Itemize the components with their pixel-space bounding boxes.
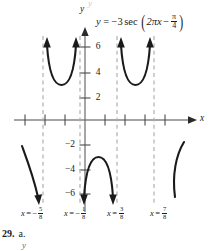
asym-den: 8 <box>162 213 167 221</box>
asymptote-lines <box>43 36 154 206</box>
y-axis-label: y <box>80 4 84 14</box>
equation-open-paren: ( <box>141 14 145 30</box>
curve-arrowheads <box>34 37 153 205</box>
asym-fraction: 3 8 <box>119 206 124 221</box>
asymptote-label-3-8: x = 3 8 <box>107 206 125 221</box>
arrow-down-1 <box>80 195 88 206</box>
asymptote-label-neg-1-8: x = − 1 8 <box>64 206 87 221</box>
x-axis-arrowhead <box>188 116 197 124</box>
y-tick-label-neg6: −6 <box>62 188 78 198</box>
equation-close-paren: ) <box>179 14 183 30</box>
equation-inner-fraction: π 4 <box>171 13 177 31</box>
asym-fraction: 1 8 <box>81 206 86 221</box>
y-tick-label-6: 6 <box>93 41 103 51</box>
asym-fraction: 7 8 <box>162 206 167 221</box>
asym-sign: − <box>33 209 38 218</box>
equation-inner-first: 2πx <box>147 17 162 28</box>
asym-sign: − <box>76 209 81 218</box>
exercise-part: a. <box>19 228 26 239</box>
arrow-down-2 <box>109 195 117 206</box>
asymptote-label-7-8: x = 7 8 <box>150 206 168 221</box>
equation-coefficient: −3 <box>112 17 123 28</box>
y-tick-label-neg4: −4 <box>62 164 78 174</box>
asym-lhs: x <box>64 209 68 218</box>
asym-lhs: x <box>21 209 25 218</box>
asym-num: 3 <box>119 206 124 213</box>
asym-lhs: x <box>150 209 154 218</box>
asym-equals: = <box>112 209 117 218</box>
arrow-up-4 <box>146 37 154 48</box>
branch-left-partial <box>22 146 38 197</box>
fraction-numerator: π <box>171 13 177 21</box>
arrow-down-3 <box>34 194 42 205</box>
y-tick-label-neg2: −2 <box>62 139 78 149</box>
asym-den: 8 <box>119 213 124 221</box>
branch-lower-middle <box>84 157 113 197</box>
asym-num: 7 <box>162 206 167 213</box>
fraction-denominator: 4 <box>171 21 177 30</box>
asymptote-label-neg-5-8: x = − 5 8 <box>21 206 44 221</box>
arrow-up-1 <box>43 37 51 48</box>
y-tick-label-4: 4 <box>93 67 103 77</box>
asym-equals: = <box>26 209 31 218</box>
asym-fraction: 5 8 <box>38 206 43 221</box>
next-figure-y-label: y <box>22 240 26 250</box>
asym-lhs: x <box>107 209 111 218</box>
y-axis-arrowhead <box>81 27 88 36</box>
arrow-up-2 <box>72 37 80 48</box>
equation-inner-minus: − <box>163 17 169 28</box>
equation-lhs: y <box>96 17 101 28</box>
branch-upper-left <box>47 45 76 85</box>
branch-right-partial <box>174 142 184 197</box>
x-axis-label: x <box>200 113 204 123</box>
equation-equals: = <box>103 17 109 28</box>
asym-den: 8 <box>38 213 43 221</box>
asym-equals: = <box>69 209 74 218</box>
asym-num: 1 <box>81 206 86 213</box>
exercise-number: 29. <box>2 228 15 239</box>
secant-curves <box>22 45 184 197</box>
y-tick-label-2: 2 <box>93 92 103 102</box>
equation-label: y = −3 sec ( 2πx − π 4 ) <box>96 13 184 31</box>
branch-upper-right <box>121 45 150 85</box>
exercise-caption: 29.a. <box>2 228 25 239</box>
asym-num: 5 <box>38 206 43 213</box>
asym-den: 8 <box>81 213 86 221</box>
equation-function: sec <box>124 17 137 28</box>
secant-graph-figure: y <box>0 0 215 251</box>
arrow-up-3 <box>117 37 125 48</box>
asym-equals: = <box>155 209 160 218</box>
